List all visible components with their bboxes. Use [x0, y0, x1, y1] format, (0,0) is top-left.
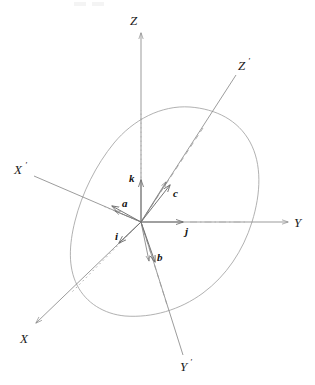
- scan-artifact: [74, 2, 104, 6]
- projection-z-prime-dashed: [141, 128, 203, 222]
- crystal-axes-diagram: Z Y X Z ′ Y ′ X ′ k j i a b c: [0, 0, 315, 385]
- lattice-vector-b-arrow: [141, 222, 155, 262]
- axis-label-z: Z: [130, 13, 138, 28]
- lattice-vector-b-label: b: [157, 251, 163, 263]
- axis-label-z-prime: Z ′: [238, 56, 251, 73]
- unit-vector-i-label: i: [115, 230, 119, 242]
- axis-label-x-prime-base: X: [13, 162, 23, 177]
- axis-label-z-prime-base: Z: [238, 58, 246, 73]
- axis-label-x-prime: X ′: [13, 160, 28, 177]
- lattice-vector-a-label: a: [122, 197, 128, 209]
- axis-label-y: Y: [294, 215, 303, 230]
- unit-vector-k-label: k: [129, 172, 135, 184]
- lattice-vector-c-label: c: [173, 187, 178, 199]
- axis-label-y-prime: Y ′: [180, 357, 193, 374]
- lattice-vector-c-arrow: [141, 182, 170, 222]
- diagram-canvas: Z Y X Z ′ Y ′ X ′ k j i a b c: [0, 0, 315, 385]
- unit-vector-j-label: j: [183, 225, 189, 237]
- axis-label-y-prime-base: Y: [180, 359, 189, 374]
- crystal-grain-outline: [70, 107, 259, 316]
- axis-label-z-prime-mark: ′: [248, 56, 251, 66]
- axis-label-y-prime-mark: ′: [190, 357, 193, 367]
- projection-x-prime-dashed: [72, 206, 141, 292]
- unit-vector-i-arrow: [119, 222, 141, 243]
- axis-label-x-prime-mark: ′: [25, 160, 28, 170]
- axis-label-x: X: [19, 331, 29, 346]
